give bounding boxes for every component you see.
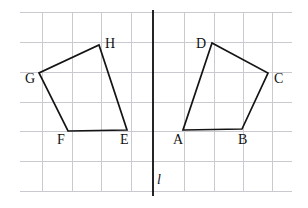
vertex-label-a: A bbox=[173, 133, 183, 147]
mirror-line-label: l bbox=[157, 173, 161, 187]
image-quadrilateral-efgh bbox=[39, 45, 127, 131]
grid-lines bbox=[20, 12, 292, 192]
vertex-label-g: G bbox=[25, 72, 35, 86]
vertex-label-h: H bbox=[105, 37, 115, 51]
geometry-figure: ABCDEFGHl bbox=[0, 0, 308, 208]
vertex-label-d: D bbox=[196, 37, 206, 51]
vertex-label-b: B bbox=[238, 133, 247, 147]
figure-canvas bbox=[0, 0, 308, 208]
vertex-label-f: F bbox=[57, 133, 65, 147]
preimage-quadrilateral-abcd bbox=[183, 43, 268, 130]
vertex-label-e: E bbox=[120, 133, 129, 147]
vertex-label-c: C bbox=[274, 72, 283, 86]
